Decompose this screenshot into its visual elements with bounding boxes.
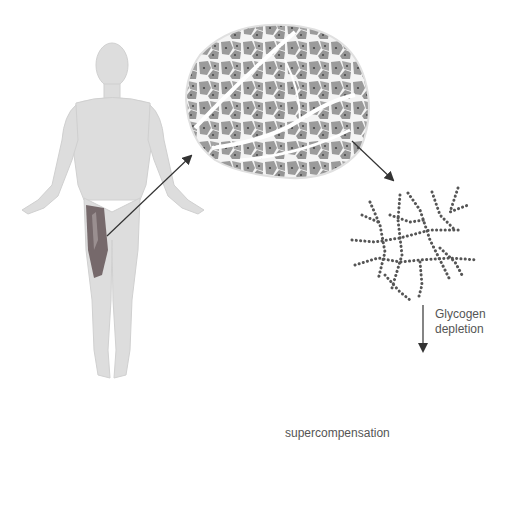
label-supercompensation: supercompensation	[285, 426, 390, 441]
muscle-cross-section	[186, 25, 369, 178]
label-glycogen-depletion-line1: Glycogen	[435, 307, 486, 322]
label-glycogen-depletion-line2: depletion	[435, 322, 484, 337]
diagram-canvas: Glycogen depletion supercompensation	[0, 0, 506, 512]
human-figure	[22, 43, 204, 378]
arrow-muscle-to-glycogen	[352, 141, 393, 180]
glycogen-normal	[352, 188, 478, 300]
